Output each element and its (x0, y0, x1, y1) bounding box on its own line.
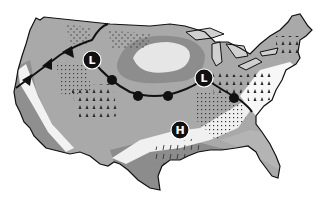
high-pressure-label: H (175, 124, 184, 137)
rain-zone-mid-atlantic (246, 72, 272, 102)
high-pressure-south: H (171, 121, 189, 139)
low-pressure-label: L (88, 54, 95, 67)
weather-map: L L H (0, 0, 329, 210)
rain-zone-new-england (276, 36, 300, 58)
low-pressure-label: L (200, 72, 207, 85)
low-pressure-east: L (195, 69, 213, 87)
low-pressure-west: L (83, 51, 101, 69)
